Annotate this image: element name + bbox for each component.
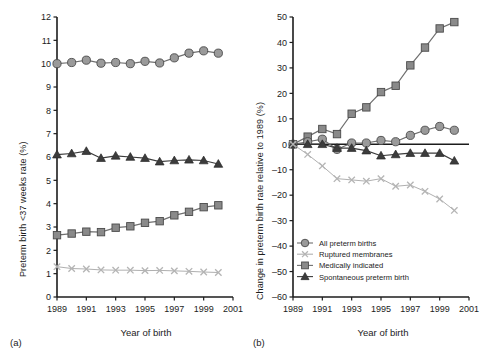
x-tick-label: 1999: [194, 304, 214, 314]
marker-square: [112, 224, 119, 231]
series-line: [57, 51, 218, 64]
marker-circle: [450, 126, 458, 134]
panel-a-x-axis-label: Year of birth: [56, 327, 236, 338]
series-x: [290, 141, 458, 214]
figure-preterm-birth-rates: Preterm birth <37 weeks rate (%) 0123456…: [0, 0, 485, 356]
series-line: [57, 151, 218, 164]
marker-square: [185, 208, 192, 215]
panel-b-x-axis-label: Year of birth: [293, 327, 473, 338]
legend-label: All preterm births: [319, 239, 377, 248]
marker-circle: [406, 131, 414, 139]
x-tick-label: 1993: [342, 304, 362, 314]
panel-a: Preterm birth <37 weeks rate (%) 0123456…: [0, 0, 242, 356]
panel-a-svg: 0123456789101112198919911993199519971999…: [0, 0, 242, 330]
marker-circle: [301, 239, 309, 247]
marker-circle: [392, 138, 400, 146]
x-tick-label: 2001: [459, 304, 479, 314]
y-tick-label: 3: [46, 222, 51, 232]
marker-circle: [421, 126, 429, 134]
y-tick-label: 10: [277, 114, 287, 124]
marker-triangle: [185, 155, 194, 163]
marker-square: [319, 125, 326, 132]
marker-circle: [185, 49, 193, 57]
x-tick-label: 1995: [371, 304, 391, 314]
y-tick-label: 1: [46, 269, 51, 279]
series-x: [54, 263, 222, 275]
series-line: [293, 144, 454, 161]
marker-square: [200, 203, 207, 210]
legend-item[interactable]: Medically indicated: [297, 261, 383, 270]
y-tick-label: –60: [272, 292, 287, 302]
y-tick-label: –30: [272, 216, 287, 226]
marker-circle: [200, 47, 208, 55]
series-line: [57, 205, 218, 235]
legend-label: Ruptured membranes: [319, 250, 393, 259]
y-tick-label: –40: [272, 241, 287, 251]
y-tick-label: 20: [277, 89, 287, 99]
x-tick-label: 1989: [283, 304, 303, 314]
marker-square: [127, 223, 134, 230]
series-triangle: [53, 147, 223, 168]
legend-item[interactable]: All preterm births: [297, 239, 377, 248]
marker-circle: [214, 49, 222, 57]
marker-square: [451, 18, 458, 25]
series-line: [293, 126, 454, 149]
panel-b-svg: –60–50–40–30–20–100102030405019891991199…: [243, 0, 485, 330]
marker-square: [436, 25, 443, 32]
y-tick-label: –20: [272, 190, 287, 200]
series-line: [293, 22, 454, 144]
y-tick-label: 2: [46, 246, 51, 256]
panel-a-plot-area: 0123456789101112198919911993199519971999…: [0, 0, 242, 330]
marker-square: [363, 104, 370, 111]
marker-square: [156, 217, 163, 224]
marker-circle: [141, 57, 149, 65]
marker-square: [348, 110, 355, 117]
legend-item[interactable]: Spontaneous preterm birth: [297, 273, 409, 282]
marker-square: [171, 212, 178, 219]
y-tick-label: 7: [46, 129, 51, 139]
x-tick-label: 1991: [312, 304, 332, 314]
marker-square: [97, 228, 104, 235]
marker-circle: [170, 54, 178, 62]
marker-square: [392, 82, 399, 89]
y-tick-label: 4: [46, 199, 51, 209]
marker-circle: [53, 60, 61, 68]
legend: All preterm birthsRuptured membranesMedi…: [297, 239, 409, 282]
marker-square: [377, 88, 384, 95]
marker-circle: [436, 122, 444, 130]
marker-square: [302, 262, 309, 269]
y-tick-label: 40: [277, 38, 287, 48]
panel-b: Change in preterm birth rate relative to…: [243, 0, 485, 356]
legend-label: Medically indicated: [319, 261, 383, 270]
marker-triangle: [450, 156, 459, 164]
marker-circle: [82, 56, 90, 64]
marker-square: [141, 219, 148, 226]
marker-x: [436, 196, 442, 202]
marker-square: [215, 202, 222, 209]
x-tick-label: 2001: [223, 304, 243, 314]
panel-b-caption: (b): [253, 337, 265, 348]
series-circle: [53, 47, 223, 68]
marker-triangle: [82, 147, 91, 155]
marker-circle: [156, 59, 164, 67]
marker-x: [304, 151, 310, 157]
y-tick-label: 0: [282, 140, 287, 150]
marker-circle: [126, 60, 134, 68]
y-tick-label: 11: [42, 36, 51, 46]
panel-b-plot-area: –60–50–40–30–20–100102030405019891991199…: [243, 0, 485, 330]
y-tick-label: 8: [46, 106, 51, 116]
x-tick-label: 1989: [47, 304, 67, 314]
marker-square: [333, 130, 340, 137]
y-tick-label: 0: [46, 292, 51, 302]
y-tick-label: –50: [272, 267, 287, 277]
legend-item[interactable]: Ruptured membranes: [297, 250, 393, 259]
y-tick-label: 30: [277, 63, 287, 73]
y-tick-label: 10: [41, 59, 51, 69]
marker-circle: [112, 58, 120, 66]
series-line: [57, 267, 218, 273]
marker-square: [68, 230, 75, 237]
marker-circle: [97, 59, 105, 67]
x-tick-label: 1999: [430, 304, 450, 314]
y-tick-label: 12: [41, 12, 51, 22]
series-line: [293, 144, 454, 210]
